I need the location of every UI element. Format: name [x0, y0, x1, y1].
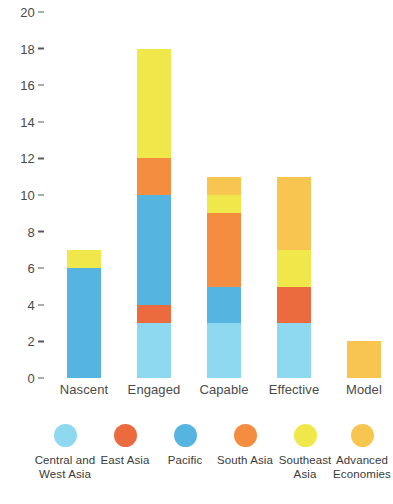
y-axis-tick-label: 14 — [20, 115, 35, 128]
y-axis-tick: 16 — [20, 79, 44, 92]
y-axis-tick-label: 10 — [20, 189, 35, 202]
legend-color-swatch — [294, 424, 317, 447]
bar-stack[interactable] — [347, 341, 381, 378]
legend-color-swatch — [54, 424, 77, 447]
bar-segment[interactable] — [207, 287, 241, 324]
y-axis-tick-label: 6 — [28, 262, 35, 275]
bar-segment[interactable] — [277, 287, 311, 324]
bar-segment[interactable] — [277, 250, 311, 287]
bar-segment[interactable] — [137, 158, 171, 195]
bar-group — [49, 250, 119, 378]
legend-color-swatch — [351, 424, 374, 447]
y-axis: 02468101214161820 — [0, 0, 44, 390]
y-axis-tick: 14 — [20, 115, 44, 128]
bar-segment[interactable] — [207, 177, 241, 195]
legend-item-label: South Asia — [217, 454, 273, 468]
legend-color-swatch — [174, 424, 197, 447]
y-axis-tick-label: 16 — [20, 79, 35, 92]
y-axis-tick-label: 18 — [20, 42, 35, 55]
bar-segment[interactable] — [137, 49, 171, 159]
bar-segment[interactable] — [207, 213, 241, 286]
bar-segment[interactable] — [277, 323, 311, 378]
bar-group — [329, 341, 393, 378]
y-axis-tick-label: 0 — [28, 372, 35, 385]
legend-item-label: East Asia — [101, 454, 150, 468]
bar-segment[interactable] — [347, 341, 381, 378]
bar-group — [119, 49, 189, 378]
y-axis-tick: 6 — [28, 262, 44, 275]
y-axis-tick: 8 — [28, 225, 44, 238]
y-axis-tick: 20 — [20, 6, 44, 19]
y-axis-tick: 2 — [28, 335, 44, 348]
bar-segment[interactable] — [67, 250, 101, 268]
bar-group — [189, 177, 259, 378]
y-axis-tick: 18 — [20, 42, 44, 55]
stacked-bar-chart: 02468101214161820 NascentEngagedCapableE… — [0, 0, 393, 504]
bar-stack[interactable] — [277, 177, 311, 378]
y-axis-tick-label: 8 — [28, 225, 35, 238]
y-axis-tick-label: 20 — [20, 6, 35, 19]
bar-group — [259, 177, 329, 378]
bar-stack[interactable] — [67, 250, 101, 378]
legend-item-label: Advanced Economies — [325, 454, 393, 481]
legend-color-swatch — [114, 424, 137, 447]
bar-segment[interactable] — [207, 195, 241, 213]
bar-segment[interactable] — [67, 268, 101, 378]
y-axis-tick: 10 — [20, 189, 44, 202]
bar-segment[interactable] — [137, 323, 171, 378]
chart-legend: Central and West AsiaEast AsiaPacificSou… — [0, 424, 393, 504]
y-axis-tick: 4 — [28, 298, 44, 311]
x-axis-category-label: Model — [319, 382, 393, 397]
bar-segment[interactable] — [137, 195, 171, 305]
legend-color-swatch — [234, 424, 257, 447]
legend-item-label: Pacific — [168, 454, 203, 468]
plot-area: 02468101214161820 NascentEngagedCapableE… — [0, 0, 393, 390]
bar-segment[interactable] — [207, 323, 241, 378]
y-axis-tick-label: 4 — [28, 298, 35, 311]
bar-stack[interactable] — [137, 49, 171, 378]
legend-item[interactable]: Advanced Economies — [325, 424, 393, 481]
bar-segment[interactable] — [137, 305, 171, 323]
bar-stack[interactable] — [207, 177, 241, 378]
y-axis-tick-label: 12 — [20, 152, 35, 165]
bar-segment[interactable] — [277, 177, 311, 250]
y-axis-tick-label: 2 — [28, 335, 35, 348]
y-axis-tick: 12 — [20, 152, 44, 165]
bars-layer: NascentEngagedCapableEffectiveModel — [44, 0, 393, 390]
